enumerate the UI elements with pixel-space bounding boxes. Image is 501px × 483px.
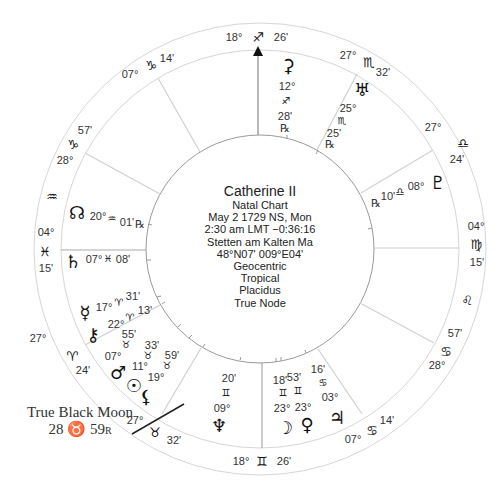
uranus-icon: ♅ bbox=[354, 81, 370, 99]
aquarius-icon: ♒ bbox=[46, 190, 58, 203]
cusp-asc-min: 15' bbox=[39, 262, 53, 274]
cancer-icon: ♋ bbox=[366, 424, 378, 437]
scorpio-icon: ♏ bbox=[363, 56, 375, 69]
lilith-min: 59' bbox=[165, 349, 179, 361]
saturn-icon: ♄ bbox=[65, 253, 81, 271]
moon-deg: 23° bbox=[274, 402, 291, 414]
moon-icon: ☽ bbox=[277, 419, 293, 437]
virgo-icon: ♍ bbox=[470, 238, 482, 251]
neptune-deg: 09° bbox=[214, 402, 231, 414]
chart-coords: 48°N07' 009°E04' bbox=[205, 248, 316, 260]
taurus-icon: ♉ bbox=[122, 340, 131, 350]
chiron-icon: ⚷ bbox=[86, 326, 99, 344]
aries-icon: ♈ bbox=[66, 350, 78, 363]
sun-min: 33' bbox=[145, 339, 159, 351]
north-node-retro: ℞ bbox=[135, 218, 145, 230]
moon-min: 18' bbox=[273, 374, 287, 386]
taurus-icon: ♉ bbox=[163, 361, 172, 371]
cusp-mc-min: 26' bbox=[274, 31, 288, 43]
jupiter-min: 16' bbox=[311, 363, 325, 375]
pluto-retro: ℞ bbox=[371, 197, 381, 209]
leo-icon: ♌ bbox=[461, 294, 473, 307]
uranus-deg: 25° bbox=[340, 102, 357, 114]
cancer-icon: ♋ bbox=[319, 378, 328, 388]
black-moon-position-value: 28 ♉ 59 bbox=[48, 421, 105, 437]
chart-place: Stetten am Kalten Ma bbox=[205, 236, 316, 248]
taurus-icon: ♉ bbox=[149, 426, 161, 439]
chart-zodiac-view: Geocentric bbox=[205, 260, 316, 272]
cusp-2-min: 24' bbox=[76, 364, 90, 376]
gemini-icon: ♊ bbox=[222, 388, 231, 398]
neptune-icon: ♆ bbox=[211, 417, 227, 435]
scorpio-icon: ♏ bbox=[338, 116, 347, 126]
pisces-icon: ♓ bbox=[39, 245, 51, 258]
cusp-5-deg: 07° bbox=[345, 433, 362, 445]
chart-type: Natal Chart bbox=[205, 199, 316, 211]
gemini-icon: ♊ bbox=[256, 455, 268, 468]
chart-date: May 2 1729 NS, Mon bbox=[205, 211, 316, 223]
pluto-icon: ♇ bbox=[430, 174, 446, 192]
cusp-asc-deg: 04° bbox=[38, 226, 55, 238]
chart-info: Catherine II Natal Chart May 2 1729 NS, … bbox=[205, 184, 316, 309]
north-node-deg: 20° bbox=[90, 210, 107, 222]
north-node-icon: ☊ bbox=[69, 204, 85, 222]
mars-min: 55' bbox=[122, 328, 136, 340]
ceres-deg: 12° bbox=[279, 80, 296, 92]
chart-node: True Node bbox=[205, 297, 316, 309]
venus-deg: 23° bbox=[295, 401, 312, 413]
cusp-6-min: 57' bbox=[448, 327, 462, 339]
libra-icon: ♎ bbox=[457, 137, 469, 150]
cusp-8-min: 24' bbox=[450, 153, 464, 165]
cusp-12-min: 57' bbox=[78, 124, 92, 136]
black-moon-position: 28 ♉ 59R bbox=[10, 421, 150, 439]
taurus-icon: ♉ bbox=[144, 351, 153, 361]
capricorn-icon: ♑ bbox=[67, 138, 79, 151]
cusp-8-deg: 27° bbox=[425, 121, 442, 133]
mars-icon: ♂ bbox=[110, 364, 126, 382]
black-moon-title: True Black Moon bbox=[10, 404, 150, 421]
cusp-5-min: 14' bbox=[380, 414, 394, 426]
mercury-min: 31' bbox=[126, 290, 140, 302]
cusp-6-deg: 28° bbox=[429, 359, 446, 371]
ceres-min: 28' bbox=[278, 110, 292, 122]
pisces-icon: ♓ bbox=[104, 254, 113, 264]
cusp-dsc-deg: 04° bbox=[468, 220, 485, 232]
jupiter-deg: 03° bbox=[322, 391, 339, 403]
cusp-11-deg: 07° bbox=[122, 68, 139, 80]
chart-time: 2:30 am LMT −0:36:16 bbox=[205, 223, 316, 235]
mercury-icon: ☿ bbox=[79, 304, 90, 322]
black-moon-retro: R bbox=[105, 425, 112, 436]
ceres-icon: ⚳ bbox=[281, 57, 294, 75]
capricorn-icon: ♑ bbox=[145, 59, 157, 72]
libra-icon: ♎ bbox=[396, 187, 405, 197]
cusp-dsc-min: 15' bbox=[470, 256, 484, 268]
cusp-12-deg: 28° bbox=[57, 154, 74, 166]
chiron-min: 13' bbox=[138, 304, 152, 316]
pluto-min: 10' bbox=[381, 190, 395, 202]
cusp-11-min: 14' bbox=[160, 52, 174, 64]
cusp-9-min: 32' bbox=[376, 66, 390, 78]
north-node-min: 01' bbox=[120, 216, 134, 228]
saturn-min: 08' bbox=[116, 253, 130, 265]
sagittarius-icon: ♐ bbox=[252, 31, 264, 44]
venus-icon: ♀ bbox=[300, 416, 313, 434]
saturn-deg: 07° bbox=[86, 253, 103, 265]
gemini-icon: ♊ bbox=[279, 388, 288, 398]
neptune-min: 20' bbox=[222, 372, 236, 384]
chart-name: Catherine II bbox=[205, 184, 316, 199]
lilith-deg: 19° bbox=[148, 371, 165, 383]
cusp-3-min: 32' bbox=[167, 434, 181, 446]
aries-icon: ♈ bbox=[126, 313, 135, 323]
mars-deg: 07° bbox=[105, 350, 122, 362]
aries-icon: ♈ bbox=[115, 298, 124, 308]
cusp-ic-deg: 18° bbox=[233, 455, 250, 467]
black-moon-label: True Black Moon 28 ♉ 59R bbox=[10, 404, 150, 439]
sagittarius-icon: ♐ bbox=[282, 96, 291, 106]
venus-min: 53' bbox=[287, 371, 301, 383]
mc-arrow bbox=[253, 46, 263, 56]
cusp-mc-deg: 18° bbox=[226, 31, 243, 43]
chart-houses: Placidus bbox=[205, 284, 316, 296]
sun-deg: 11° bbox=[132, 360, 148, 372]
cusp-ic-min: 26' bbox=[277, 455, 291, 467]
cusp-9-deg: 27° bbox=[340, 49, 357, 61]
